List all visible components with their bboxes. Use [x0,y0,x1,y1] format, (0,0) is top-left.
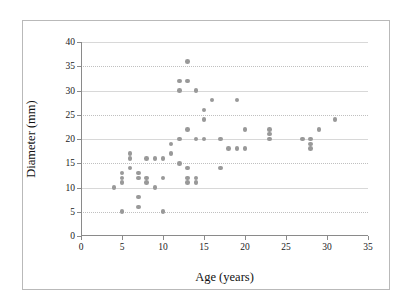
gridline-y-40 [81,42,368,43]
scatter-point [194,176,199,181]
scatter-point [136,171,141,176]
scatter-point [169,151,174,156]
scatter-point [185,180,190,185]
scatter-point [161,209,166,214]
scatter-point [226,146,231,151]
scatter-point [185,166,190,171]
scatter-point [267,132,272,137]
gridline-y-25 [81,115,368,116]
scatter-point [267,127,272,132]
scatter-point [177,137,182,142]
scatter-point [308,142,313,147]
scatter-point [120,176,125,181]
scatter-point [243,146,248,151]
scatter-point [185,59,190,64]
gridline-y-15 [81,163,368,164]
x-tick-label-5: 5 [120,242,125,252]
gridline-y-35 [81,66,368,67]
scatter-point [128,166,133,171]
y-tick-label-15: 15 [66,158,76,168]
scatter-point [202,117,207,122]
y-tick-label-30: 30 [66,86,76,96]
scatter-point [185,127,190,132]
scatter-point [185,176,190,181]
scatter-point [136,205,141,210]
gridline-y-30 [81,91,368,92]
scatter-point [161,156,166,161]
x-tick-10 [163,236,164,240]
y-axis-line [81,42,82,236]
scatter-point [128,156,133,161]
scatter-point [177,161,182,166]
scatter-point [128,151,133,156]
x-axis-label: Age (years) [81,270,368,285]
y-tick-label-35: 35 [66,61,76,71]
scatter-point [177,88,182,93]
x-tick-label-20: 20 [240,242,250,252]
y-tick-label-20: 20 [66,134,76,144]
x-tick-15 [204,236,205,240]
scatter-point [153,156,158,161]
y-tick-20 [77,139,81,140]
scatter-point [177,79,182,84]
x-tick-label-35: 35 [363,242,373,252]
x-axis-line [81,235,368,236]
x-tick-25 [286,236,287,240]
y-tick-40 [77,42,81,43]
x-tick-5 [122,236,123,240]
scatter-point [333,117,338,122]
plot-wrapper: 0510152025303540 05101520253035 Age (yea… [23,21,389,289]
scatter-point [144,156,149,161]
scatter-point [267,137,272,142]
scatter-point [169,142,174,147]
scatter-point [218,137,223,142]
figure-frame: 0510152025303540 05101520253035 Age (yea… [22,20,390,290]
scatter-point [161,176,166,181]
scatter-point [136,176,141,181]
y-tick-30 [77,91,81,92]
scatter-point [308,146,313,151]
y-tick-15 [77,163,81,164]
y-tick-label-40: 40 [66,37,76,47]
scatter-point [194,137,199,142]
y-tick-label-25: 25 [66,110,76,120]
y-tick-10 [77,188,81,189]
scatter-point [194,88,199,93]
y-tick-label-0: 0 [70,231,75,241]
y-tick-35 [77,66,81,67]
x-tick-label-15: 15 [199,242,209,252]
y-tick-label-5: 5 [70,207,75,217]
x-tick-20 [245,236,246,240]
gridline-y-10 [81,188,368,189]
scatter-point [300,137,305,142]
scatter-point [218,166,223,171]
scatter-point [136,195,141,200]
x-tick-label-10: 10 [158,242,168,252]
scatter-point [120,180,125,185]
gridline-y-5 [81,212,368,213]
x-tick-35 [368,236,369,240]
scatter-point [235,98,240,103]
y-tick-25 [77,115,81,116]
y-tick-label-10: 10 [66,183,76,193]
scatter-point [317,127,322,132]
scatter-point [194,180,199,185]
scatter-point [202,137,207,142]
scatter-point [120,171,125,176]
scatter-point [144,176,149,181]
x-tick-label-0: 0 [79,242,84,252]
scatter-point [144,180,149,185]
scatter-point [243,127,248,132]
gridline-y-20 [81,139,368,140]
x-tick-label-25: 25 [281,242,291,252]
scatter-point [235,146,240,151]
x-tick-30 [327,236,328,240]
scatter-point [120,209,125,214]
scatter-point [308,137,313,142]
y-tick-5 [77,212,81,213]
scatter-point [202,108,207,113]
scatter-point [185,79,190,84]
plot-area: 0510152025303540 05101520253035 [81,42,368,236]
x-tick-label-30: 30 [322,242,332,252]
scatter-point [112,185,117,190]
